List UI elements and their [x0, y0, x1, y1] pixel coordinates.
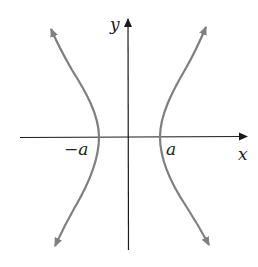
hyperbola-left-branch — [51, 29, 99, 137]
y-axis — [128, 19, 129, 250]
vertex-label-right: a — [166, 139, 176, 159]
hyperbola-diagram: y x −a a — [0, 0, 258, 267]
x-axis — [20, 137, 247, 138]
vertex-label-left: −a — [64, 139, 88, 159]
x-axis-label: x — [238, 144, 248, 164]
hyperbola-right-branch — [160, 27, 206, 137]
y-axis-label: y — [109, 14, 120, 34]
